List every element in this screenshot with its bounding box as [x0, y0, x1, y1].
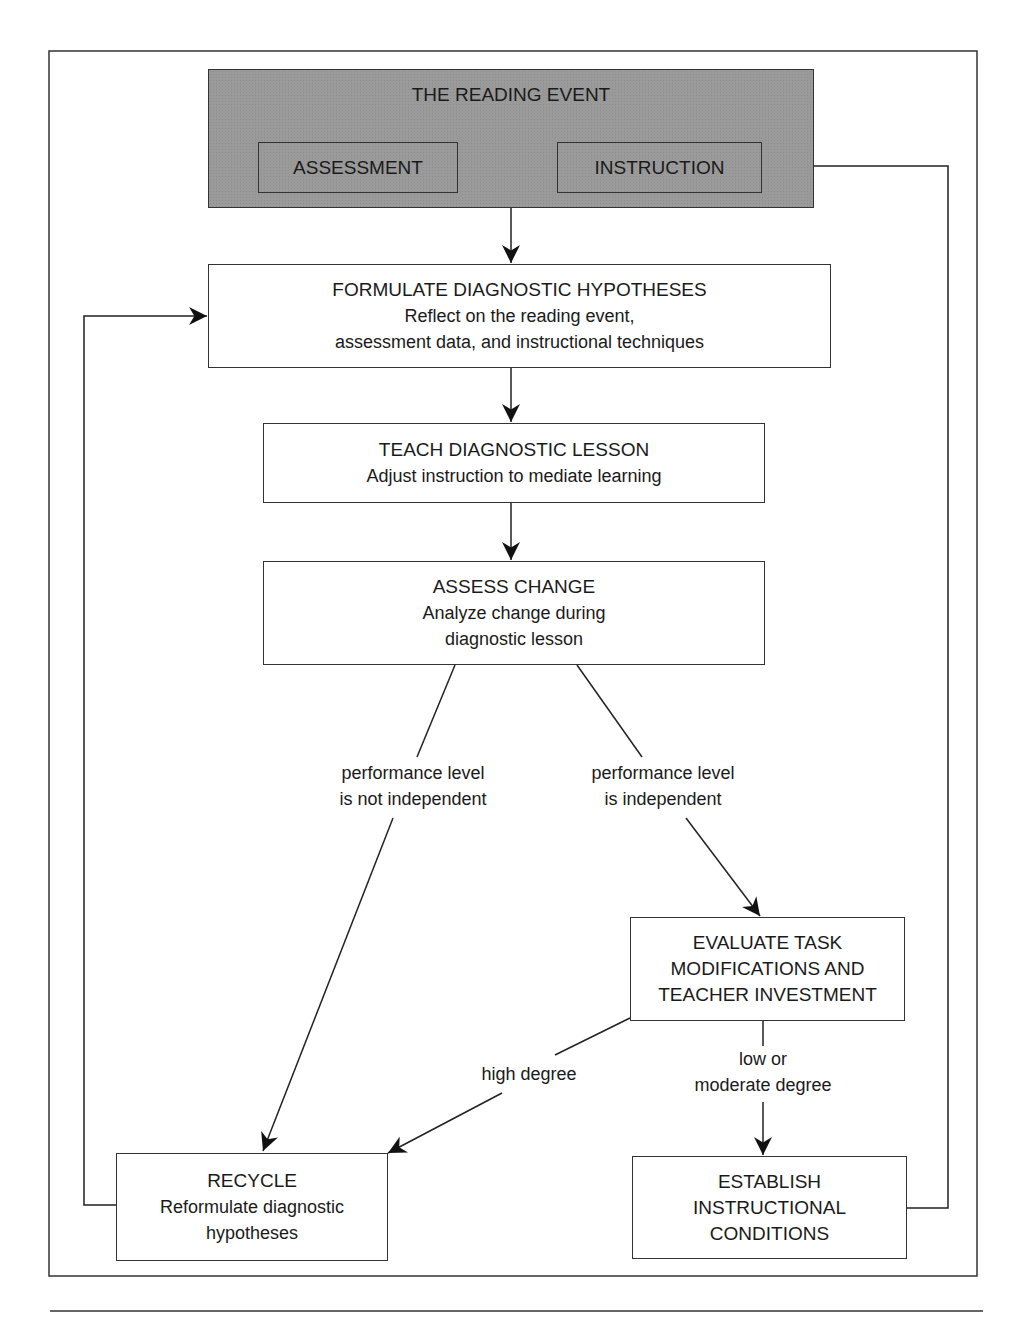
label-high-degree-line1: high degree: [466, 1061, 592, 1087]
line-not-independent-upper: [417, 665, 455, 757]
label-not-independent-line2: is not independent: [313, 786, 513, 812]
arrow-recycle-to-formulate: [84, 316, 207, 1205]
establish-line1: ESTABLISH: [718, 1169, 821, 1195]
label-independent-line2: is independent: [563, 786, 763, 812]
assess-change-line2: diagnostic lesson: [445, 626, 583, 652]
evaluate-line1: EVALUATE TASK: [693, 930, 843, 956]
assess-change-box: ASSESS CHANGE Analyze change during diag…: [263, 561, 765, 665]
label-not-independent: performance level is not independent: [313, 760, 513, 812]
line-independent-upper: [577, 665, 642, 757]
assess-change-title: ASSESS CHANGE: [433, 574, 596, 600]
teach-lesson-box: TEACH DIAGNOSTIC LESSON Adjust instructi…: [263, 423, 765, 503]
establish-line3: CONDITIONS: [710, 1221, 829, 1247]
arrow-independent-lower: [686, 818, 760, 916]
label-low-degree: low or moderate degree: [673, 1046, 853, 1098]
evaluate-line3: TEACHER INVESTMENT: [658, 982, 877, 1008]
assess-change-line1: Analyze change during: [422, 600, 605, 626]
arrow-high-degree-lower: [388, 1093, 502, 1153]
establish-line2: INSTRUCTIONAL: [693, 1195, 846, 1221]
line-high-degree-upper: [555, 1018, 630, 1055]
arrow-not-independent-lower: [263, 818, 393, 1151]
recycle-box: RECYCLE Reformulate diagnostic hypothese…: [116, 1153, 388, 1261]
formulate-hypotheses-box: FORMULATE DIAGNOSTIC HYPOTHESES Reflect …: [208, 264, 831, 368]
evaluate-task-box: EVALUATE TASK MODIFICATIONS AND TEACHER …: [630, 917, 905, 1021]
recycle-line2: hypotheses: [206, 1220, 298, 1246]
formulate-line2: assessment data, and instructional techn…: [335, 329, 704, 355]
label-independent-line1: performance level: [563, 760, 763, 786]
label-independent: performance level is independent: [563, 760, 763, 812]
reading-event-title: THE READING EVENT: [208, 84, 814, 106]
establish-conditions-box: ESTABLISH INSTRUCTIONAL CONDITIONS: [632, 1156, 907, 1259]
label-low-degree-line1: low or: [673, 1046, 853, 1072]
teach-line1: Adjust instruction to mediate learning: [366, 463, 661, 489]
instruction-label: INSTRUCTION: [595, 155, 725, 181]
teach-title: TEACH DIAGNOSTIC LESSON: [379, 437, 649, 463]
label-not-independent-line1: performance level: [313, 760, 513, 786]
label-low-degree-line2: moderate degree: [673, 1072, 853, 1098]
recycle-line1: Reformulate diagnostic: [160, 1194, 344, 1220]
recycle-title: RECYCLE: [207, 1168, 297, 1194]
assessment-label: ASSESSMENT: [293, 155, 423, 181]
formulate-title: FORMULATE DIAGNOSTIC HYPOTHESES: [332, 277, 706, 303]
instruction-box: INSTRUCTION: [557, 142, 762, 193]
evaluate-line2: MODIFICATIONS AND: [671, 956, 865, 982]
label-high-degree: high degree: [466, 1061, 592, 1087]
assessment-box: ASSESSMENT: [258, 142, 458, 193]
formulate-line1: Reflect on the reading event,: [404, 303, 634, 329]
